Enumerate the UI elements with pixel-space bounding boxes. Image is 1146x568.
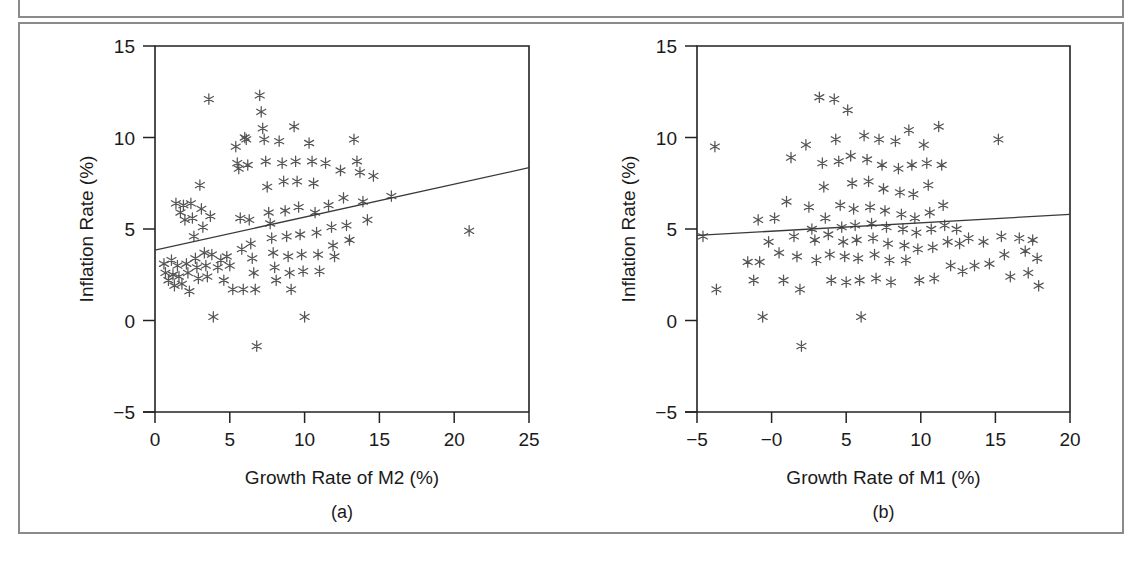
data-point-b-83 [930,273,939,283]
data-point-a-61 [267,233,276,243]
data-point-b-91 [955,238,964,248]
data-point-b-84 [934,121,943,131]
x-tick-label-a-2: 10 [294,429,315,450]
data-point-b-6 [755,257,764,267]
data-point-b-93 [964,233,973,243]
data-point-b-30 [830,94,839,104]
data-point-a-42 [237,244,246,254]
data-point-a-81 [305,138,314,148]
data-point-a-44 [240,132,249,142]
data-point-b-101 [1015,233,1024,243]
data-point-b-16 [795,284,804,294]
data-point-a-23 [197,204,206,214]
data-point-a-70 [284,251,293,261]
y-tick-label-a-2: 5 [124,219,135,240]
data-point-a-77 [296,229,305,239]
data-point-a-41 [236,213,245,223]
x-tick-label-a-1: 5 [225,429,236,450]
data-point-b-24 [818,158,827,168]
fit-line-a [155,168,529,250]
data-point-b-72 [909,189,918,199]
data-point-a-102 [369,171,378,181]
data-point-b-13 [786,152,795,162]
data-point-b-28 [825,249,834,259]
scatter-plot-a: −50510150510152025Growth Rate of M2 (%)I… [20,24,573,532]
data-point-b-61 [885,255,894,265]
y-tick-label-a-0: −5 [113,402,135,423]
data-point-a-64 [272,275,281,285]
data-point-a-71 [285,268,294,278]
data-point-a-72 [287,284,296,294]
data-point-b-37 [842,277,851,287]
data-point-b-35 [839,237,848,247]
data-point-a-67 [279,176,288,186]
data-point-a-43 [239,284,248,294]
data-point-a-48 [246,238,255,248]
data-point-b-14 [789,231,798,241]
data-point-a-53 [255,90,264,100]
data-point-a-79 [299,266,308,276]
data-point-a-74 [291,156,300,166]
data-point-b-98 [997,231,1006,241]
data-point-b-4 [749,275,758,285]
data-point-a-47 [245,215,254,225]
data-point-b-50 [866,202,875,212]
data-point-b-102 [1021,246,1030,256]
data-point-b-85 [937,160,946,170]
data-point-a-38 [231,141,240,151]
panel-caption-b: (b) [873,502,895,522]
data-point-a-56 [260,134,269,144]
data-point-b-97 [994,134,1003,144]
data-point-b-88 [943,237,952,247]
data-point-a-90 [327,222,336,232]
scatter-series-b-0 [698,92,1043,351]
data-point-b-76 [915,275,924,285]
data-point-a-94 [339,193,348,203]
data-point-b-57 [879,184,888,194]
data-point-b-40 [848,178,857,188]
data-point-a-103 [387,191,396,201]
data-point-b-55 [875,134,884,144]
data-point-b-94 [970,260,979,270]
data-point-b-46 [857,312,866,322]
y-tick-label-a-3: 10 [114,128,135,149]
data-point-b-47 [860,130,869,140]
data-point-a-20 [192,262,201,272]
x-tick-label-b-5: 20 [1059,429,1080,450]
data-point-b-44 [854,253,863,263]
data-point-a-29 [206,211,215,221]
data-point-a-34 [219,275,228,285]
data-point-a-85 [312,227,321,237]
data-point-b-106 [1034,281,1043,291]
data-point-b-96 [985,259,994,269]
figure-stack: −50510150510152025Growth Rate of M2 (%)I… [0,0,1146,568]
panel-container: −50510150510152025Growth Rate of M2 (%)I… [20,24,1122,532]
data-point-a-45 [242,134,251,144]
data-point-a-63 [270,262,279,272]
data-point-a-18 [189,231,198,241]
data-point-a-76 [294,202,303,212]
data-point-a-89 [324,200,333,210]
data-point-b-68 [900,240,909,250]
data-point-a-49 [248,253,257,263]
x-axis-title-b: Growth Rate of M1 (%) [786,467,980,488]
data-point-a-54 [257,107,266,117]
data-point-b-42 [851,220,860,230]
data-point-b-62 [886,277,895,287]
scatter-plot-b: −5051015−5−05101520Growth Rate of M1 (%)… [573,24,1126,532]
data-point-b-79 [924,180,933,190]
data-point-b-64 [894,163,903,173]
x-tick-label-a-3: 15 [369,429,390,450]
data-point-b-36 [840,251,849,261]
previous-figure-box-remnant [18,0,1124,18]
data-point-b-0 [698,231,707,241]
x-tick-label-b-1: −0 [761,429,783,450]
x-axis-title-a: Growth Rate of M2 (%) [245,467,439,488]
data-point-b-78 [922,158,931,168]
data-point-a-101 [363,215,372,225]
data-point-b-77 [919,140,928,150]
data-point-a-86 [314,249,323,259]
data-point-b-39 [846,151,855,161]
data-point-b-73 [910,213,919,223]
data-point-b-99 [1000,249,1009,259]
